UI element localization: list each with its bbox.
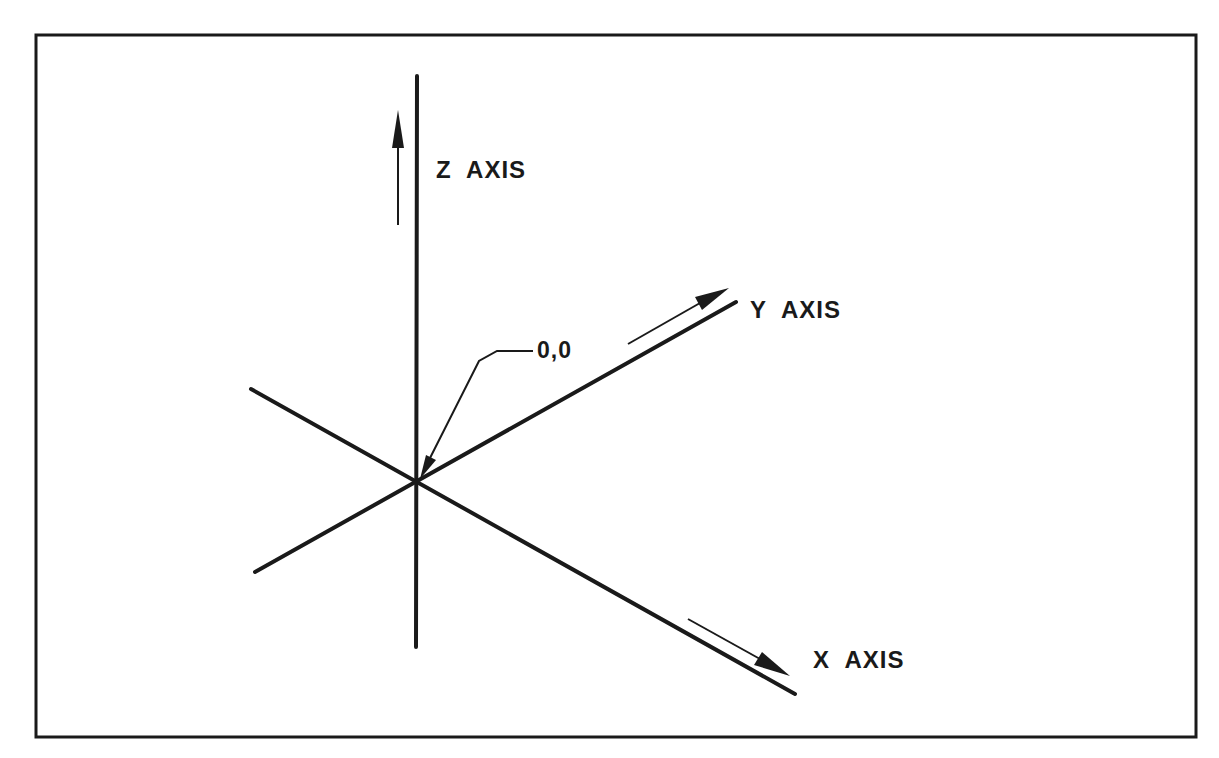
x-axis-line bbox=[251, 389, 795, 694]
y-axis-label: Y AXIS bbox=[750, 298, 841, 322]
z-direction-arrow-icon bbox=[392, 110, 404, 225]
axes-diagram bbox=[0, 0, 1219, 758]
origin-label: 0,0 bbox=[537, 339, 572, 362]
frame-border bbox=[36, 35, 1196, 737]
x-axis-label: X AXIS bbox=[813, 648, 904, 672]
z-axis-label: Z AXIS bbox=[436, 158, 526, 182]
x-direction-arrow-icon bbox=[688, 619, 790, 676]
y-axis-line bbox=[255, 302, 736, 572]
origin-leader-arrow-icon bbox=[420, 351, 533, 479]
z-axis-line bbox=[416, 76, 417, 647]
